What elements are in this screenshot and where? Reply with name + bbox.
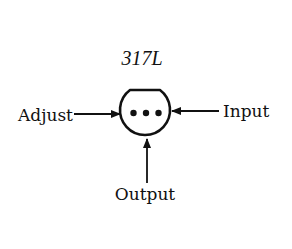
adjust-label: Adjust <box>17 105 73 125</box>
input-label: Input <box>223 101 269 121</box>
part-number-title: 317L <box>120 47 162 69</box>
output-label: Output <box>115 184 176 204</box>
pin-dot-adjust <box>130 110 136 116</box>
pinout-diagram: 317L Adjust Input Output <box>0 0 292 249</box>
pin-dot-input <box>155 110 161 116</box>
pin-dots <box>130 110 161 116</box>
pin-dot-output <box>143 110 149 116</box>
